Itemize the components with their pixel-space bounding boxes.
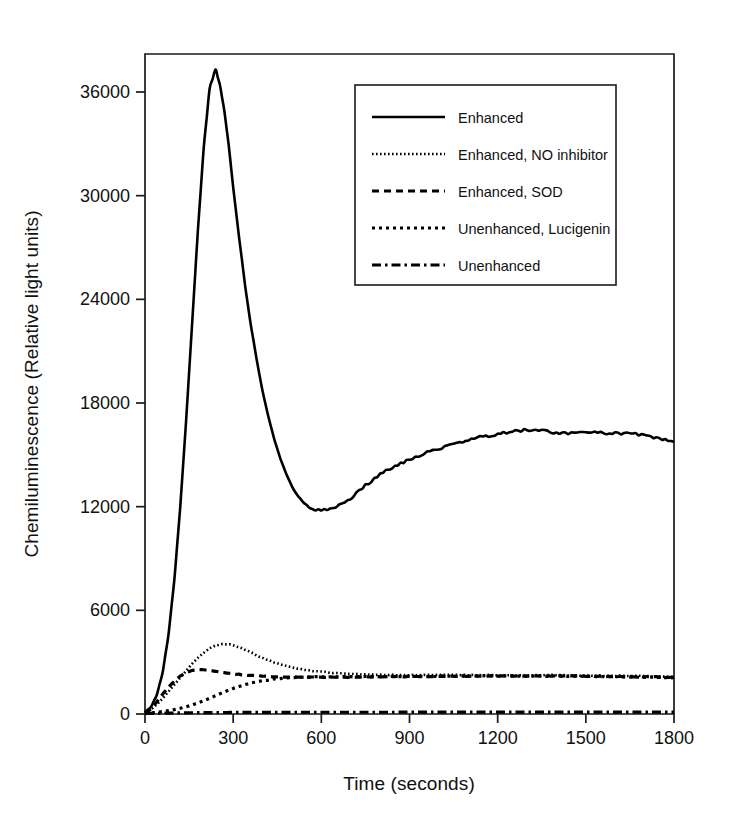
- legend-label: Enhanced, NO inhibitor: [458, 147, 608, 163]
- x-tick-label: 0: [140, 728, 150, 748]
- y-axis-tick-labels: 060001200018000240003000036000: [80, 82, 130, 724]
- series-line-unenhanced-lucigenin: [145, 676, 674, 714]
- y-axis-title: Chemiluminescence (Relative light units): [21, 210, 42, 557]
- y-tick-label: 30000: [80, 186, 130, 206]
- y-tick-label: 36000: [80, 82, 130, 102]
- y-tick-label: 12000: [80, 497, 130, 517]
- legend: EnhancedEnhanced, NO inhibitorEnhanced, …: [355, 85, 616, 285]
- x-axis-ticks: [145, 714, 674, 723]
- legend-label: Enhanced, SOD: [458, 184, 563, 200]
- legend-label: Unenhanced, Lucigenin: [458, 221, 610, 237]
- x-axis-tick-labels: 0300600900120015001800: [140, 728, 694, 748]
- x-tick-label: 1800: [654, 728, 694, 748]
- chemiluminescence-line-chart: 060001200018000240003000036000 030060090…: [0, 0, 729, 819]
- chart-figure: 060001200018000240003000036000 030060090…: [0, 0, 729, 819]
- x-tick-label: 300: [218, 728, 248, 748]
- y-axis-ticks: [136, 92, 145, 714]
- x-axis-title: Time (seconds): [343, 773, 475, 794]
- legend-label: Unenhanced: [458, 258, 540, 274]
- x-tick-label: 1500: [566, 728, 606, 748]
- x-tick-label: 900: [394, 728, 424, 748]
- x-tick-label: 600: [306, 728, 336, 748]
- x-tick-label: 1200: [478, 728, 518, 748]
- y-tick-label: 18000: [80, 393, 130, 413]
- series-line-enhanced-no-inhibitor: [145, 644, 674, 713]
- y-tick-label: 24000: [80, 289, 130, 309]
- y-tick-label: 6000: [90, 600, 130, 620]
- y-tick-label: 0: [120, 704, 130, 724]
- legend-label: Enhanced: [458, 110, 523, 126]
